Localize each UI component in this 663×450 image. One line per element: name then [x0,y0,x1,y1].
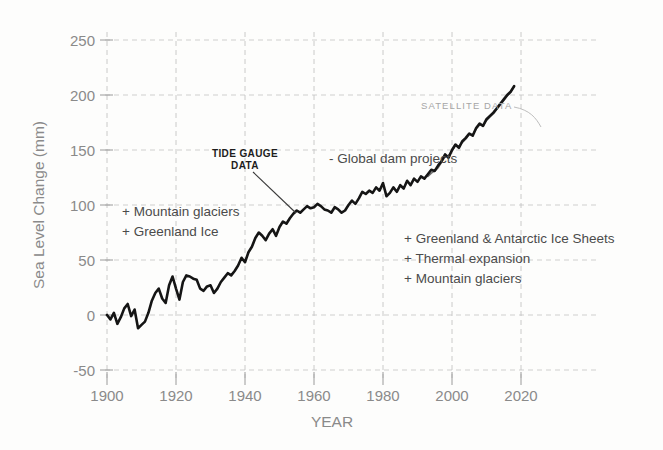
y-tick-label-0: 0 [87,307,95,324]
y-axis-tick-labels: 250 200 150 100 50 0 -50 [70,32,95,379]
y-tick-label-200: 200 [70,87,95,104]
x-tick-label-1920: 1920 [159,387,192,404]
satellite-label: SATELLITE DATA [421,100,512,111]
y-tick-label-100: 100 [70,197,95,214]
right-annotation-mountain-glaciers: + Mountain glaciers [404,271,522,286]
x-tick-label-2020: 2020 [504,387,537,404]
satellite-leader-line [514,107,541,127]
right-annotation-thermal-expansion: + Thermal expansion [404,251,530,266]
x-tick-label-1940: 1940 [228,387,261,404]
tide-gauge-label-line1: TIDE GAUGE [212,148,278,159]
y-tick-label-150: 150 [70,142,95,159]
chart-canvas: 250 200 150 100 50 0 -50 1900 1920 1940 … [0,0,663,450]
y-tick-label-250: 250 [70,32,95,49]
right-annotation-ice-sheets: + Greenland & Antarctic Ice Sheets [404,231,615,246]
y-tick-label-neg50: -50 [73,362,95,379]
x-tick-label-2000: 2000 [435,387,468,404]
x-tickmarks [107,372,521,385]
x-axis-tick-labels: 1900 1920 1940 1960 1980 2000 2020 [90,387,537,404]
tide-gauge-label-line2: DATA [231,160,259,171]
x-tick-label-1960: 1960 [297,387,330,404]
sea-level-chart-figure: 250 200 150 100 50 0 -50 1900 1920 1940 … [0,0,663,450]
x-tick-label-1900: 1900 [90,387,123,404]
tide-gauge-leader-line [253,172,296,213]
x-tick-label-1980: 1980 [366,387,399,404]
left-annotation-greenland-ice: + Greenland Ice [122,224,218,239]
x-axis-title: YEAR [311,413,353,430]
y-tick-label-50: 50 [78,252,95,269]
global-dam-projects-annotation: - Global dam projects [329,151,458,166]
y-axis-title: Sea Level Change (mm) [30,121,47,289]
left-annotation-mountain-glaciers: + Mountain glaciers [122,204,240,219]
